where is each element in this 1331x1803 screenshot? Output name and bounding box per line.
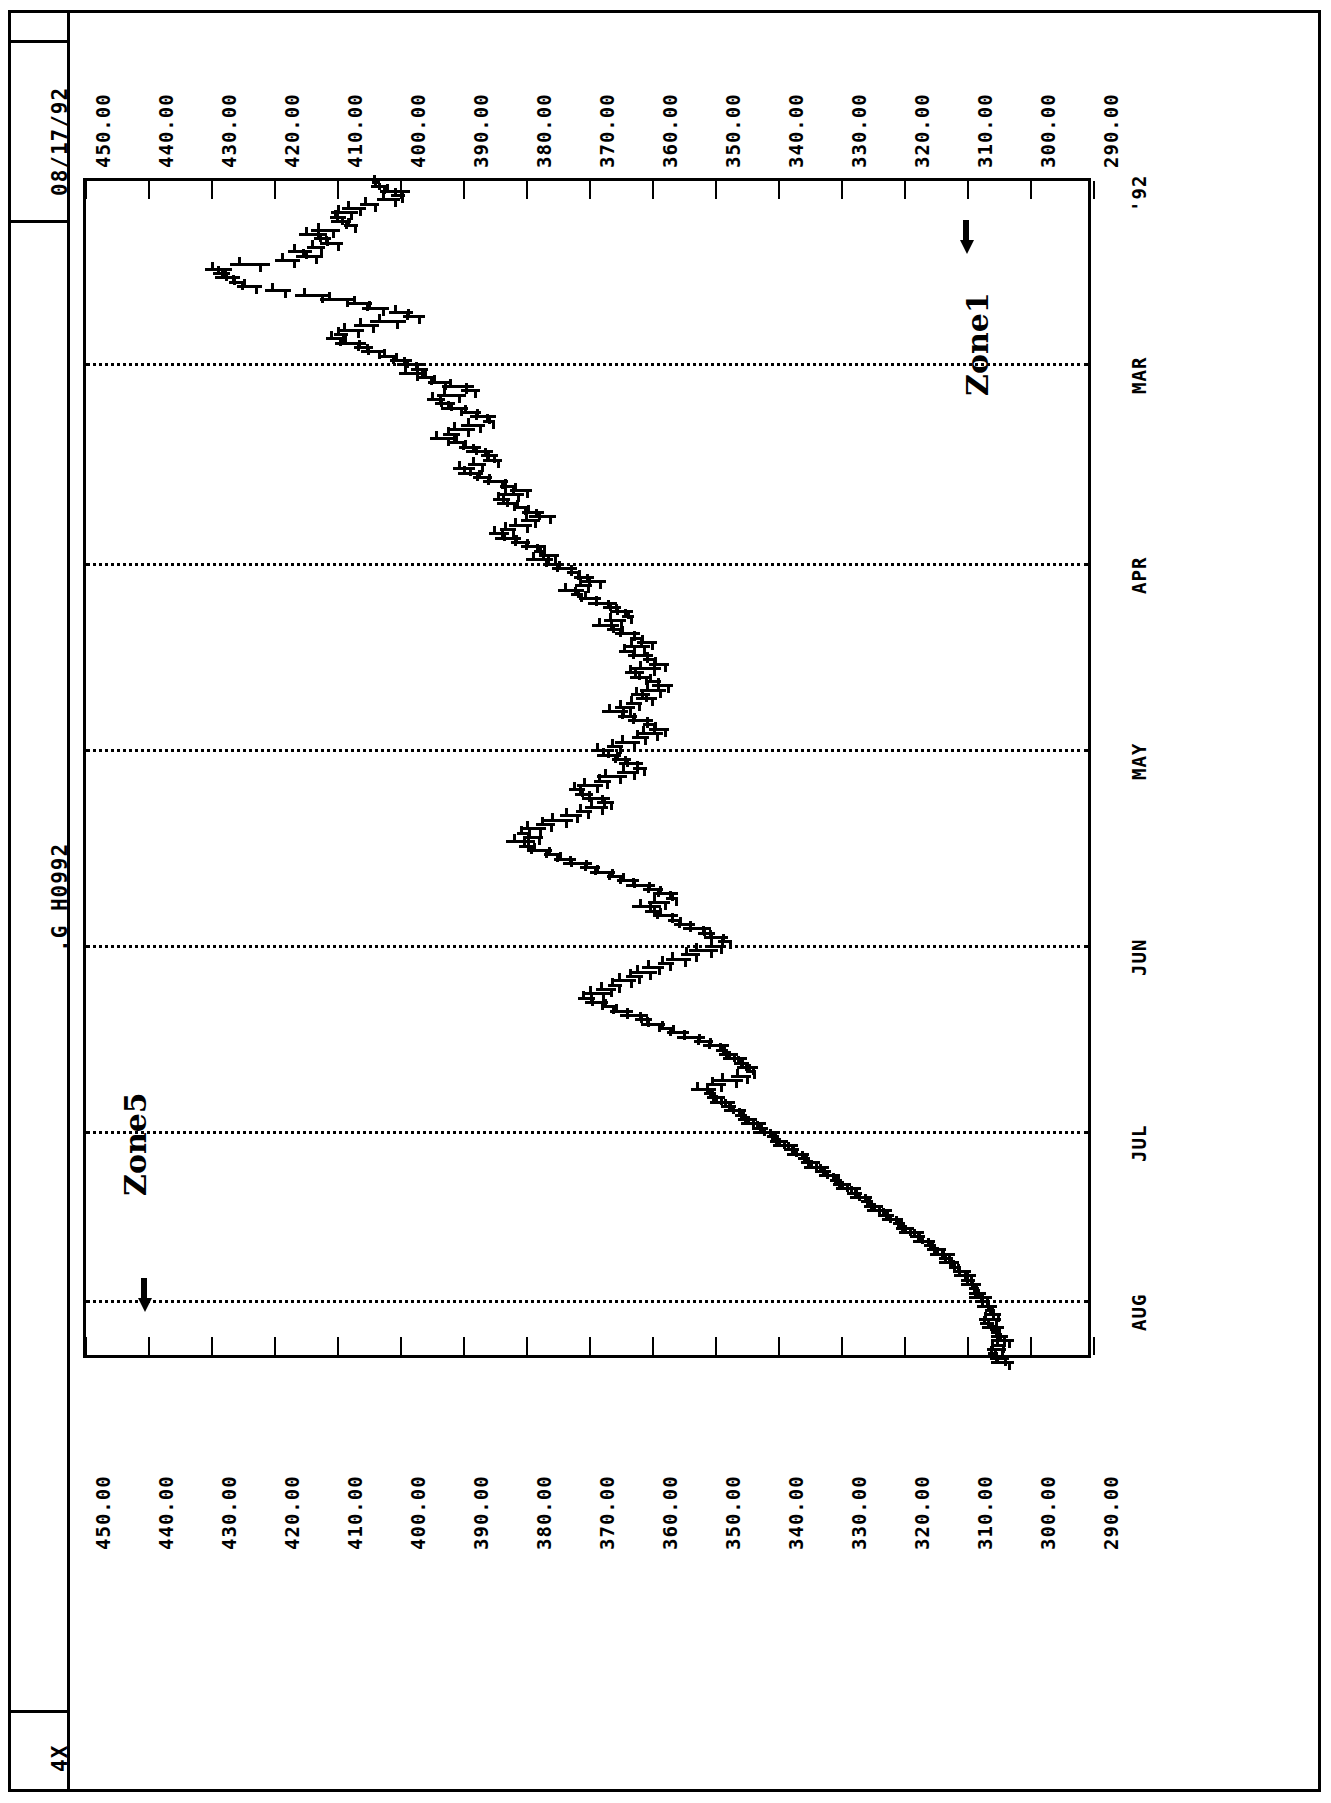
ohlc-open-tick — [488, 474, 491, 481]
ohlc-open-tick — [661, 956, 664, 963]
ohlc-bar — [653, 914, 678, 917]
ohlc-close-tick — [565, 821, 568, 828]
ohlc-bar — [299, 233, 327, 236]
value-axis-label: 310.00 — [974, 93, 996, 168]
ohlc-open-tick — [709, 930, 712, 937]
ohlc-open-tick — [702, 926, 705, 933]
ohlc-open-tick — [578, 570, 581, 577]
ohlc-open-tick — [900, 1221, 903, 1228]
value-axis-tick — [778, 181, 780, 199]
ohlc-close-tick — [638, 977, 641, 984]
ohlc-open-tick — [532, 552, 535, 559]
ohlc-open-tick — [630, 639, 633, 646]
ohlc-open-tick — [715, 1095, 718, 1102]
ohlc-close-tick — [643, 769, 646, 776]
ohlc-close-tick — [394, 200, 397, 207]
ohlc-open-tick — [611, 739, 614, 746]
ohlc-open-tick — [654, 657, 657, 664]
ohlc-bar — [597, 775, 627, 778]
ohlc-open-tick — [601, 795, 604, 802]
time-axis-label: JUL — [1128, 1125, 1150, 1162]
ohlc-bar — [544, 819, 572, 822]
ohlc-open-tick — [996, 1355, 999, 1362]
ohlc-open-tick — [589, 986, 592, 993]
time-axis-label: MAR — [1128, 357, 1150, 394]
ohlc-open-tick — [774, 1134, 777, 1141]
ohlc-open-tick — [472, 444, 475, 451]
ohlc-open-tick — [895, 1216, 898, 1223]
ohlc-open-tick — [596, 743, 599, 750]
ohlc-bar — [558, 589, 583, 592]
ohlc-open-tick — [913, 1229, 916, 1236]
ohlc-bar — [521, 827, 546, 830]
ohlc-open-tick — [611, 869, 614, 876]
ohlc-close-tick — [651, 699, 654, 706]
ohlc-open-tick — [629, 665, 632, 672]
ohlc-bar — [666, 958, 691, 961]
ohlc-open-tick — [653, 895, 656, 902]
time-gridline — [86, 1131, 1088, 1134]
ohlc-close-tick — [720, 1085, 723, 1092]
ohlc-open-tick — [336, 214, 339, 221]
ohlc-bar — [521, 545, 546, 548]
price-chart-plot-area[interactable] — [83, 178, 1091, 1358]
ohlc-bar — [585, 806, 608, 809]
ohlc-open-tick — [317, 223, 320, 230]
ohlc-bar — [628, 654, 653, 657]
ohlc-open-tick — [648, 882, 651, 889]
value-axis-label: 390.00 — [470, 93, 492, 168]
ohlc-open-tick — [659, 886, 662, 893]
ohlc-open-tick — [435, 431, 438, 438]
time-axis-label: JUN — [1128, 938, 1150, 975]
ohlc-open-tick — [683, 1030, 686, 1037]
ohlc-close-tick — [596, 786, 599, 793]
ohlc-open-tick — [646, 1017, 649, 1024]
ohlc-open-tick — [449, 379, 452, 386]
ohlc-open-tick — [626, 1008, 629, 1015]
ohlc-open-tick — [989, 1307, 992, 1314]
ohlc-open-tick — [487, 453, 490, 460]
ohlc-bar — [265, 289, 290, 292]
ohlc-open-tick — [760, 1125, 763, 1132]
ohlc-open-tick — [586, 574, 589, 581]
value-axis-tick — [337, 181, 339, 199]
ohlc-bar — [689, 949, 717, 952]
ohlc-bar — [288, 250, 312, 253]
value-axis-tick — [1030, 181, 1032, 199]
ohlc-close-tick — [259, 265, 262, 272]
ohlc-close-tick — [315, 257, 318, 264]
ohlc-open-tick — [646, 683, 649, 690]
ohlc-open-tick — [583, 778, 586, 785]
ohlc-open-tick — [958, 1268, 961, 1275]
ohlc-open-tick — [721, 1073, 724, 1080]
value-axis-tick — [652, 181, 654, 199]
ohlc-close-tick — [658, 968, 661, 975]
ohlc-close-tick — [695, 955, 698, 962]
ohlc-open-tick — [636, 730, 639, 737]
ohlc-open-tick — [623, 644, 626, 651]
value-axis-tick — [1093, 181, 1095, 199]
zone-label: Zone1 — [960, 292, 995, 396]
ohlc-close-tick — [587, 812, 590, 819]
ohlc-open-tick — [415, 362, 418, 369]
ohlc-open-tick — [458, 461, 461, 468]
ohlc-bar — [447, 428, 475, 431]
ohlc-open-tick — [325, 236, 328, 243]
ohlc-open-tick — [598, 774, 601, 781]
ohlc-bar — [630, 971, 657, 974]
ohlc-close-tick — [418, 317, 421, 324]
ohlc-open-tick — [328, 292, 331, 299]
value-axis-label: 420.00 — [281, 1475, 303, 1550]
chart-date-label: 08/17/92 — [48, 87, 72, 196]
ohlc-open-tick — [520, 826, 523, 833]
ohlc-open-tick — [769, 1129, 772, 1136]
ohlc-open-tick — [584, 591, 587, 598]
value-axis-label: 430.00 — [218, 1475, 240, 1550]
ohlc-bar — [580, 580, 607, 583]
ohlc-bar — [370, 320, 406, 323]
ohlc-open-tick — [624, 609, 627, 616]
value-axis-tick — [274, 1337, 276, 1355]
ohlc-close-tick — [526, 526, 529, 533]
ohlc-open-tick — [636, 761, 639, 768]
ohlc-open-tick — [737, 1056, 740, 1063]
